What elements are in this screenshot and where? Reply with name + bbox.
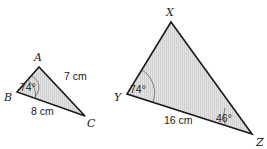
vertex-y-label: Y bbox=[114, 91, 123, 104]
triangle-xyz: 74° 46° X Y Z 16 cm bbox=[114, 6, 264, 149]
vertex-b-label: B bbox=[3, 91, 12, 104]
angle-y-label: 74° bbox=[130, 83, 146, 95]
triangle-abc: 74° A B C 7 cm 8 cm bbox=[3, 51, 96, 130]
angle-b-label: 74° bbox=[20, 81, 36, 93]
similar-triangles-diagram: 74° A B C 7 cm 8 cm 74° 46° X Y Z 16 cm bbox=[0, 0, 267, 149]
side-yz-label: 16 cm bbox=[164, 114, 193, 126]
vertex-c-label: C bbox=[87, 117, 96, 130]
vertex-a-label: A bbox=[33, 51, 42, 64]
vertex-z-label: Z bbox=[255, 136, 264, 149]
vertex-x-label: X bbox=[165, 6, 175, 19]
side-bc-label: 8 cm bbox=[31, 105, 54, 117]
side-ac-label: 7 cm bbox=[64, 70, 87, 82]
angle-z-label: 46° bbox=[216, 112, 232, 124]
